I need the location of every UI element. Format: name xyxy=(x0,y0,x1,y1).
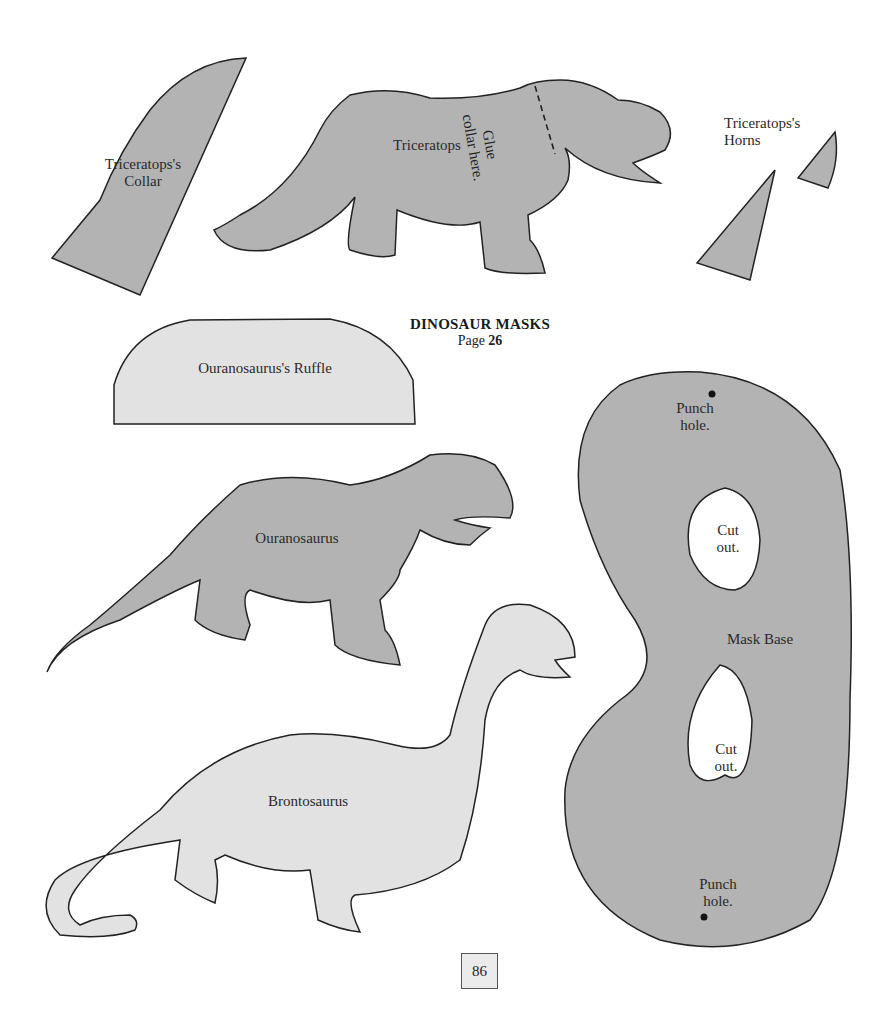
mask-base-label: Mask Base xyxy=(710,631,810,648)
page-prefix: Page xyxy=(458,333,485,348)
brontosaurus-label: Brontosaurus xyxy=(248,793,368,810)
cut-bottom-line1: Cut xyxy=(706,741,746,758)
punch-top-line2: hole. xyxy=(665,417,725,434)
horns-label-line1: Triceratops's xyxy=(724,115,800,132)
page-ref-number: 26 xyxy=(488,333,502,348)
punch-bottom-line2: hole. xyxy=(688,893,748,910)
cut-out-bottom-label: Cut out. xyxy=(706,741,746,775)
title-heading: DINOSAUR MASKS xyxy=(390,316,570,333)
punch-top-line1: Punch xyxy=(665,400,725,417)
page-number-box: 86 xyxy=(461,953,498,989)
mask-base-shape xyxy=(565,372,851,947)
triceratops-shape xyxy=(214,80,670,273)
punch-hole-bottom xyxy=(701,914,708,921)
collar-label-line2: Collar xyxy=(98,173,188,190)
horns-label-line2: Horns xyxy=(724,132,800,149)
punch-bottom-line1: Punch xyxy=(688,876,748,893)
ruffle-label: Ouranosaurus's Ruffle xyxy=(150,360,380,377)
cut-top-line2: out. xyxy=(708,539,748,556)
collar-label: Triceratops's Collar xyxy=(98,156,188,190)
horns-label: Triceratops's Horns xyxy=(724,115,800,149)
cut-out-top-label: Cut out. xyxy=(708,522,748,556)
title-page-ref: Page 26 xyxy=(390,333,570,349)
triceratops-horn-large xyxy=(697,170,775,280)
triceratops-horn-small xyxy=(798,132,836,188)
brontosaurus-shape xyxy=(46,604,575,937)
page-title: DINOSAUR MASKS Page 26 xyxy=(390,316,570,349)
cut-top-line1: Cut xyxy=(708,522,748,539)
cut-bottom-line2: out. xyxy=(706,758,746,775)
ouranosaurus-label: Ouranosaurus xyxy=(232,530,362,547)
punch-hole-top xyxy=(709,391,716,398)
punch-hole-bottom-label: Punch hole. xyxy=(688,876,748,910)
collar-label-line1: Triceratops's xyxy=(98,156,188,173)
punch-hole-top-label: Punch hole. xyxy=(665,400,725,434)
ouranosaurus-shape xyxy=(47,454,513,672)
